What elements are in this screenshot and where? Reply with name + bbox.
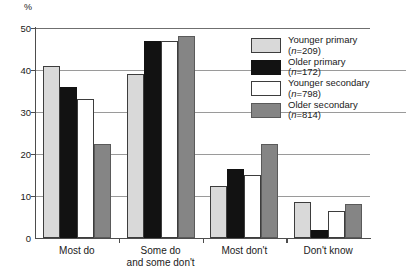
x-tick-mark-3 xyxy=(286,238,287,243)
legend-label-2: Older primary(n=172) xyxy=(288,57,346,78)
y-tick-mark-40 xyxy=(31,70,35,71)
x-category-label-1: Most do xyxy=(35,245,119,257)
bar-3-3 xyxy=(244,175,261,238)
legend-item-2[interactable]: Older primary(n=172) xyxy=(251,58,401,80)
bar-3-4 xyxy=(261,144,278,239)
bar-1-4 xyxy=(94,144,111,239)
bar-1-1 xyxy=(43,66,60,238)
x-category-label-line1: Don't know xyxy=(304,245,353,256)
x-category-label-4: Don't know xyxy=(286,245,370,257)
y-tick-label-50: 50 xyxy=(3,23,31,34)
bar-1-2 xyxy=(60,87,77,238)
legend-series-name: Older secondary xyxy=(288,99,358,110)
bar-4-2 xyxy=(311,230,328,238)
bar-group-2 xyxy=(127,28,195,238)
x-category-label-2: Some doand some don't xyxy=(119,245,203,268)
legend-label-4: Older secondary(n=814) xyxy=(288,100,358,121)
y-tick-label-10: 10 xyxy=(3,191,31,202)
y-tick-mark-20 xyxy=(31,154,35,155)
y-tick-mark-50 xyxy=(31,28,35,29)
legend-series-count: (n=814) xyxy=(288,110,358,121)
x-category-label-line1: Most don't xyxy=(221,245,267,256)
legend-series-name: Older primary xyxy=(288,56,346,67)
bar-4-3 xyxy=(328,211,345,238)
y-tick-label-30: 30 xyxy=(3,107,31,118)
legend-series-name: Younger secondary xyxy=(288,77,370,88)
y-axis-line xyxy=(35,27,36,239)
legend-label-1: Younger primary(n=209) xyxy=(288,35,357,56)
legend-item-1[interactable]: Younger primary(n=209) xyxy=(251,36,401,58)
y-tick-mark-30 xyxy=(31,112,35,113)
legend-swatch-icon-1 xyxy=(251,38,281,53)
bar-4-1 xyxy=(294,202,311,238)
legend-item-4[interactable]: Older secondary(n=814) xyxy=(251,101,401,123)
x-category-label-line1: Most do xyxy=(59,245,95,256)
bar-3-1 xyxy=(210,186,227,239)
legend: Younger primary(n=209)Older primary(n=17… xyxy=(251,36,401,122)
x-category-label-3: Most don't xyxy=(203,245,287,257)
bar-2-4 xyxy=(178,36,195,238)
bar-group-1 xyxy=(43,28,111,238)
bar-2-1 xyxy=(127,74,144,238)
bar-chart: % 01020304050 Most doSome doand some don… xyxy=(0,0,406,276)
legend-swatch-icon-3 xyxy=(251,81,281,96)
legend-swatch-icon-2 xyxy=(251,60,281,75)
x-tick-mark-2 xyxy=(203,238,204,243)
legend-series-count: (n=209) xyxy=(288,46,357,57)
x-category-label-line2: and some don't xyxy=(119,257,203,269)
legend-series-name: Younger primary xyxy=(288,34,357,45)
bar-2-3 xyxy=(161,41,178,238)
y-tick-label-0: 0 xyxy=(3,233,31,244)
bar-2-2 xyxy=(144,41,161,238)
legend-label-3: Younger secondary(n=798) xyxy=(288,78,370,99)
y-axis-tick-labels: 01020304050 xyxy=(0,0,31,276)
x-tick-mark-1 xyxy=(119,238,120,243)
bar-3-2 xyxy=(227,169,244,238)
legend-series-count: (n=798) xyxy=(288,89,370,100)
x-category-label-line1: Some do xyxy=(141,245,181,256)
y-tick-label-40: 40 xyxy=(3,65,31,76)
legend-item-3[interactable]: Younger secondary(n=798) xyxy=(251,79,401,101)
bar-4-4 xyxy=(345,204,362,238)
y-tick-label-20: 20 xyxy=(3,149,31,160)
legend-swatch-icon-4 xyxy=(251,103,281,118)
legend-series-count: (n=172) xyxy=(288,67,346,78)
bar-1-3 xyxy=(77,99,94,238)
y-tick-mark-10 xyxy=(31,196,35,197)
